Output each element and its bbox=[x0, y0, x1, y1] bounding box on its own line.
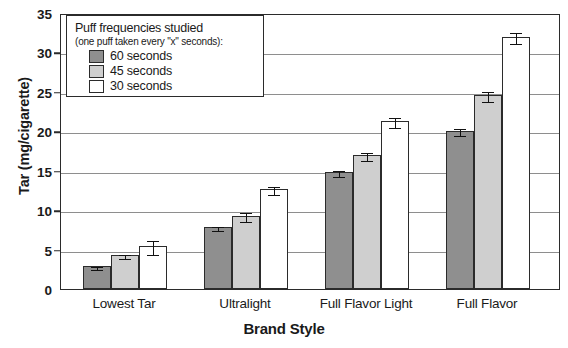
error-bar-cap bbox=[268, 187, 280, 188]
bar bbox=[111, 255, 139, 289]
legend-title: Puff frequencies studied bbox=[75, 21, 263, 35]
legend-swatch-icon bbox=[89, 65, 104, 78]
error-bar-cap bbox=[147, 241, 159, 242]
error-bar bbox=[246, 213, 247, 222]
legend-item: 30 seconds bbox=[89, 79, 263, 93]
y-axis-tick-label: 15 bbox=[18, 164, 52, 179]
error-bar-cap bbox=[91, 267, 103, 268]
error-bar-cap bbox=[389, 118, 401, 119]
x-axis-title: Brand Style bbox=[0, 320, 568, 337]
y-axis-tick-label: 25 bbox=[18, 85, 52, 100]
y-axis-tick-label: 35 bbox=[18, 7, 52, 22]
error-bar-cap bbox=[212, 231, 224, 232]
x-axis-tick-label: Full Flavor bbox=[407, 296, 567, 311]
error-bar-cap bbox=[454, 136, 466, 137]
error-bar-cap bbox=[333, 177, 345, 178]
bar bbox=[502, 37, 530, 289]
bar bbox=[232, 216, 260, 289]
error-bar-cap bbox=[389, 128, 401, 129]
legend-items: 60 seconds45 seconds30 seconds bbox=[75, 49, 263, 93]
error-bar-cap bbox=[147, 255, 159, 256]
error-bar bbox=[153, 241, 154, 255]
error-bar-cap bbox=[240, 222, 252, 223]
chart-container: Tar (mg/cigarette) 05101520253035 Puff f… bbox=[0, 0, 568, 348]
error-bar bbox=[274, 187, 275, 195]
bar bbox=[353, 155, 381, 289]
y-axis-tick-label: 30 bbox=[18, 46, 52, 61]
bar bbox=[446, 131, 474, 290]
legend-swatch-icon bbox=[89, 50, 104, 63]
error-bar-cap bbox=[91, 270, 103, 271]
legend-item: 60 seconds bbox=[89, 49, 263, 63]
error-bar bbox=[516, 33, 517, 44]
error-bar-cap bbox=[268, 195, 280, 196]
error-bar-cap bbox=[361, 161, 373, 162]
plot-area: Puff frequencies studied (one puff taken… bbox=[60, 14, 560, 290]
error-bar bbox=[367, 153, 368, 161]
legend-item-label: 60 seconds bbox=[110, 49, 172, 63]
error-bar-cap bbox=[454, 129, 466, 130]
error-bar-cap bbox=[361, 153, 373, 154]
y-axis-tick-label: 5 bbox=[18, 243, 52, 258]
y-axis-tick-label: 20 bbox=[18, 125, 52, 140]
legend-subtitle: (one puff taken every "x" seconds): bbox=[75, 35, 263, 48]
bar bbox=[325, 172, 353, 289]
error-bar-cap bbox=[510, 33, 522, 34]
legend-item: 45 seconds bbox=[89, 64, 263, 78]
error-bar-cap bbox=[510, 44, 522, 45]
legend: Puff frequencies studied (one puff taken… bbox=[66, 15, 264, 97]
error-bar-cap bbox=[482, 102, 494, 103]
bar bbox=[474, 95, 502, 289]
error-bar-cap bbox=[240, 213, 252, 214]
bar bbox=[260, 189, 288, 289]
legend-item-label: 45 seconds bbox=[110, 64, 172, 78]
error-bar-cap bbox=[119, 259, 131, 260]
error-bar-cap bbox=[482, 92, 494, 93]
error-bar-cap bbox=[119, 255, 131, 256]
bar bbox=[381, 121, 409, 289]
error-bar bbox=[395, 118, 396, 127]
error-bar-cap bbox=[333, 171, 345, 172]
legend-swatch-icon bbox=[89, 80, 104, 93]
error-bar bbox=[488, 92, 489, 101]
bar bbox=[204, 227, 232, 289]
y-axis-tick-label: 10 bbox=[18, 204, 52, 219]
legend-item-label: 30 seconds bbox=[110, 79, 172, 93]
error-bar-cap bbox=[212, 227, 224, 228]
